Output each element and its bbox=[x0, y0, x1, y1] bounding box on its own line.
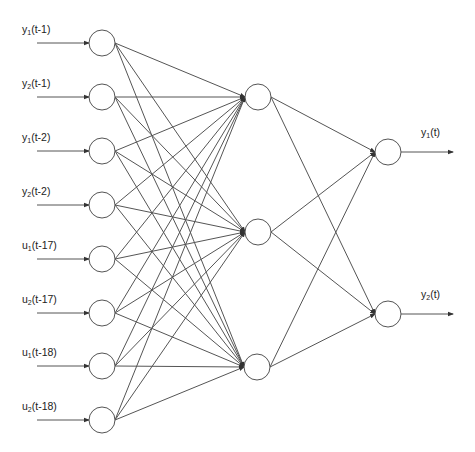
input-label-2: y2(t-1) bbox=[22, 77, 50, 89]
edge-input-8-hidden-1 bbox=[115, 97, 245, 420]
input-node-3 bbox=[89, 138, 115, 164]
edge-hidden-3-output-1 bbox=[270, 152, 375, 367]
edge-input-3-hidden-2 bbox=[115, 151, 245, 232]
input-label-3: y1(t-2) bbox=[22, 131, 50, 143]
edge-input-5-hidden-1 bbox=[115, 97, 245, 259]
edge-input-7-hidden-3 bbox=[115, 366, 244, 367]
label-time-lag: (t-2) bbox=[31, 131, 50, 143]
edge-hidden-1-output-2 bbox=[271, 97, 375, 314]
input-label-8: u2(t-18) bbox=[22, 400, 57, 412]
edge-input-4-hidden-3 bbox=[115, 205, 244, 367]
hidden-node-1 bbox=[245, 84, 271, 110]
label-time-lag: (t-18) bbox=[32, 400, 57, 412]
edge-input-5-hidden-2 bbox=[115, 232, 245, 259]
neural-network-diagram: y1(t-1)y2(t-1)y1(t-2)y2(t-2)u1(t-17)u2(t… bbox=[0, 0, 475, 452]
edge-hidden-1-output-1 bbox=[271, 97, 375, 152]
hidden-node-2 bbox=[245, 219, 271, 245]
output-node-1 bbox=[375, 139, 401, 165]
input-label-1: y1(t-1) bbox=[22, 23, 50, 35]
edge-input-3-hidden-1 bbox=[115, 97, 245, 151]
edge-input-6-hidden-3 bbox=[115, 313, 244, 367]
input-node-5 bbox=[89, 246, 115, 272]
output-label-2: y2(t) bbox=[421, 288, 440, 300]
input-node-8 bbox=[89, 407, 115, 433]
hidden-node-3 bbox=[244, 354, 270, 380]
label-time-lag: (t) bbox=[430, 288, 440, 300]
label-time-lag: (t-1) bbox=[31, 77, 50, 89]
input-label-4: y2(t-2) bbox=[22, 185, 50, 197]
input-node-2 bbox=[89, 84, 115, 110]
edge-input-6-hidden-1 bbox=[115, 97, 245, 313]
input-label-5: u1(t-17) bbox=[22, 239, 57, 251]
label-time-lag: (t) bbox=[430, 126, 440, 138]
edge-input-1-hidden-1 bbox=[115, 43, 245, 97]
edge-hidden-2-output-1 bbox=[271, 152, 375, 232]
input-node-4 bbox=[89, 192, 115, 218]
input-label-7: u1(t-18) bbox=[22, 346, 57, 358]
edge-input-8-hidden-3 bbox=[115, 367, 244, 420]
input-node-6 bbox=[89, 300, 115, 326]
edge-input-2-hidden-2 bbox=[115, 97, 245, 232]
edge-hidden-3-output-2 bbox=[270, 314, 375, 367]
input-node-1 bbox=[89, 30, 115, 56]
edge-hidden-2-output-2 bbox=[271, 232, 375, 314]
network-graph bbox=[0, 0, 475, 452]
output-node-2 bbox=[375, 301, 401, 327]
edge-input-5-hidden-3 bbox=[115, 259, 244, 367]
output-label-1: y1(t) bbox=[421, 126, 440, 138]
edge-input-4-hidden-2 bbox=[115, 205, 245, 232]
label-time-lag: (t-18) bbox=[32, 346, 57, 358]
edge-input-7-hidden-2 bbox=[115, 232, 245, 366]
edge-input-6-hidden-2 bbox=[115, 232, 245, 313]
label-time-lag: (t-17) bbox=[32, 293, 57, 305]
label-time-lag: (t-2) bbox=[31, 185, 50, 197]
label-time-lag: (t-17) bbox=[32, 239, 57, 251]
input-label-6: u2(t-17) bbox=[22, 293, 57, 305]
label-time-lag: (t-1) bbox=[31, 23, 50, 35]
input-node-7 bbox=[89, 353, 115, 379]
edge-input-4-hidden-1 bbox=[115, 97, 245, 205]
